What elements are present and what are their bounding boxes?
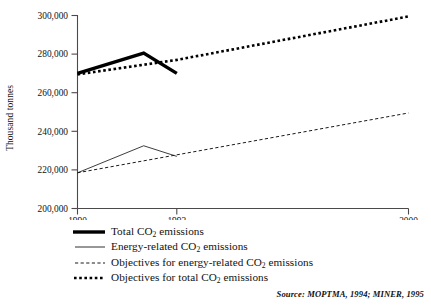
chart-svg: 300,000 280,000 260,000 240,000 220,000 … — [0, 0, 431, 220]
x-tick-label: 1990 — [68, 216, 87, 220]
legend-item-energy-related: Energy-related CO2 emissions — [0, 240, 431, 256]
legend-item-objectives-total: Objectives for total CO2 emissions — [0, 271, 431, 287]
chart-legend: Total CO2 emissions Energy-related CO2 e… — [0, 224, 431, 286]
legend-item-total-co2: Total CO2 emissions — [0, 224, 431, 240]
x-tick-labels: 1990 1993 2000 — [68, 216, 418, 220]
y-tick-label: 280,000 — [38, 49, 69, 59]
legend-item-objectives-energy: Objectives for energy-related CO2 emissi… — [0, 255, 431, 271]
y-tick-label: 240,000 — [38, 127, 69, 137]
legend-key-thin-dashed-icon — [72, 257, 106, 269]
legend-key-thick-dotted-icon — [72, 272, 106, 284]
x-tick-label: 2000 — [399, 216, 418, 220]
series-energy-related-line — [78, 146, 177, 173]
y-tick-label: 200,000 — [38, 204, 69, 214]
legend-key-thick-solid-icon — [72, 226, 106, 238]
x-tick-label: 1993 — [167, 216, 186, 220]
co2-emissions-figure: 300,000 280,000 260,000 240,000 220,000 … — [0, 0, 431, 305]
legend-label-objectives-total: Objectives for total CO2 emissions — [111, 271, 268, 285]
y-axis-ticks — [72, 16, 78, 209]
source-note: Source: MOPTMA, 1994; MINER, 1995 — [277, 289, 425, 299]
y-tick-label: 300,000 — [38, 11, 69, 21]
y-tick-label: 220,000 — [38, 165, 69, 175]
y-tick-labels: 300,000 280,000 260,000 240,000 220,000 … — [38, 11, 69, 214]
chart-plot-area: 300,000 280,000 260,000 240,000 220,000 … — [0, 0, 431, 220]
series-objectives-total-line — [78, 16, 409, 74]
legend-label-objectives-energy: Objectives for energy-related CO2 emissi… — [111, 256, 313, 270]
y-axis-title: Thousand tonnes — [2, 58, 18, 178]
x-axis-ticks — [78, 209, 409, 215]
series-total-co2-line — [78, 53, 177, 73]
series-objectives-energy-line — [78, 113, 409, 173]
y-tick-label: 260,000 — [38, 88, 69, 98]
legend-label-energy-related: Energy-related CO2 emissions — [111, 240, 248, 254]
legend-label-total-co2: Total CO2 emissions — [111, 225, 204, 239]
legend-key-thin-solid-icon — [72, 241, 106, 253]
